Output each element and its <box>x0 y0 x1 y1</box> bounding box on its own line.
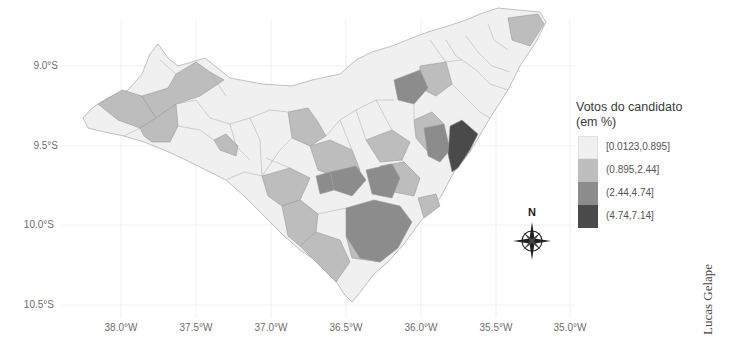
legend: Votos do candidato (em %) [0.0123,0.895]… <box>576 100 726 228</box>
y-tick-label: 9.5°S <box>14 140 58 151</box>
legend-item: (2.44,4.74] <box>576 182 726 205</box>
x-tick-label: 38.0°W <box>91 322 151 333</box>
y-tick-label: 10.5°S <box>10 299 54 310</box>
legend-label: (4.74,7.14] <box>606 210 654 221</box>
x-tick-label: 37.5°W <box>166 322 226 333</box>
legend-label: (2.44,4.74] <box>606 187 654 198</box>
legend-item: (0.895,2.44] <box>576 159 726 182</box>
x-tick-label: 36.0°W <box>391 322 451 333</box>
legend-swatch <box>578 182 598 205</box>
legend-swatch <box>578 136 598 159</box>
legend-item: (4.74,7.14] <box>576 205 726 228</box>
x-tick-label: 37.0°W <box>241 322 301 333</box>
legend-swatch <box>578 205 598 228</box>
legend-title-line2: (em %) <box>576 115 726 130</box>
compass-north-label: N <box>528 206 536 218</box>
compass-rose-icon <box>513 222 551 260</box>
legend-title-line1: Votos do candidato <box>576 100 726 115</box>
author-credit: Lucas Gelape <box>700 264 716 335</box>
y-tick-label: 9.0°S <box>14 60 58 71</box>
y-tick-label: 10.0°S <box>10 219 54 230</box>
legend-swatch <box>578 159 598 182</box>
legend-label: (0.895,2.44] <box>606 164 659 175</box>
legend-item: [0.0123,0.895] <box>576 136 726 159</box>
alagoas-map <box>83 8 546 302</box>
legend-label: [0.0123,0.895] <box>606 141 670 152</box>
x-tick-label: 35.0°W <box>540 322 600 333</box>
x-tick-label: 36.5°W <box>316 322 376 333</box>
x-tick-label: 35.5°W <box>466 322 526 333</box>
